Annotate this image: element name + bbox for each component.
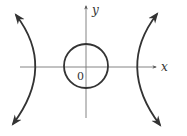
y-axis-label: y xyxy=(91,3,99,17)
x-axis-label: x xyxy=(161,60,168,74)
origin-label: 0 xyxy=(77,70,84,83)
diagram-canvas: y x 0 xyxy=(0,0,187,136)
right-hyperbola-branch xyxy=(137,14,160,125)
left-hyperbola-branch xyxy=(13,15,35,124)
